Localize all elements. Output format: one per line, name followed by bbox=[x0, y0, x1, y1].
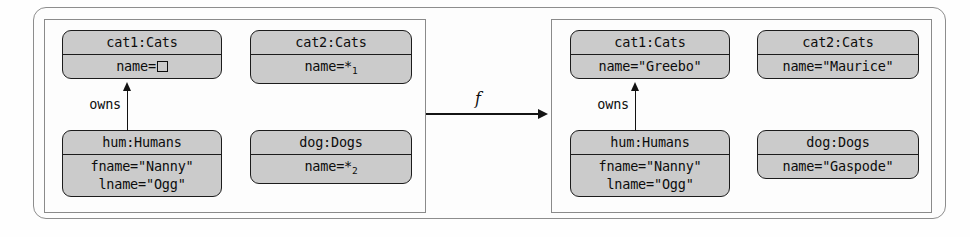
object-header-source-cat2: cat2:Cats bbox=[251, 31, 411, 55]
object-slots-source-cat1: name= bbox=[63, 55, 221, 78]
slot-text-source-cat1-0: name= bbox=[116, 58, 156, 74]
slot-text-target-hum-1: lname="Ogg" bbox=[575, 175, 725, 193]
object-box-target-hum: hum:Humans fname="Nanny" lname="Ogg" bbox=[570, 130, 730, 197]
target-model-panel: cat1:Cats name="Greebo" cat2:Cats name="… bbox=[551, 19, 932, 213]
object-header-target-hum: hum:Humans bbox=[571, 131, 729, 155]
slot-text-source-dog-0: name=* bbox=[304, 158, 352, 174]
slot-text-source-cat2-0: name=* bbox=[304, 58, 352, 74]
object-header-source-cat1: cat1:Cats bbox=[63, 31, 221, 55]
slot-text-source-hum-0: fname="Nanny" bbox=[67, 157, 217, 175]
object-box-target-dog: dog:Dogs name="Gaspode" bbox=[757, 130, 919, 179]
object-header-target-cat2: cat2:Cats bbox=[758, 31, 918, 55]
object-slots-source-dog: name=*2 bbox=[251, 155, 411, 183]
link-label-owns-source: owns bbox=[89, 96, 121, 112]
transformation-arrow-shaft bbox=[426, 113, 539, 115]
transformation-arrow: f bbox=[426, 113, 548, 115]
object-header-target-dog: dog:Dogs bbox=[758, 131, 918, 155]
slot-text-source-hum-1: lname="Ogg" bbox=[67, 175, 217, 193]
object-slots-target-cat2: name="Maurice" bbox=[758, 55, 918, 78]
object-slots-target-hum: fname="Nanny" lname="Ogg" bbox=[571, 155, 729, 196]
slot-subscript-source-cat2: 1 bbox=[352, 65, 358, 76]
empty-value-square-icon bbox=[157, 61, 168, 72]
object-box-source-cat1: cat1:Cats name= bbox=[62, 30, 222, 79]
object-slots-target-dog: name="Gaspode" bbox=[758, 155, 918, 178]
object-slots-source-cat2: name=*1 bbox=[251, 55, 411, 83]
object-header-source-hum: hum:Humans bbox=[63, 131, 221, 155]
link-shaft bbox=[127, 89, 128, 131]
slot-text-target-hum-0: fname="Nanny" bbox=[575, 157, 725, 175]
object-header-source-dog: dog:Dogs bbox=[251, 131, 411, 155]
object-header-target-cat1: cat1:Cats bbox=[571, 31, 729, 55]
object-slots-target-cat1: name="Greebo" bbox=[571, 55, 729, 78]
object-box-source-dog: dog:Dogs name=*2 bbox=[250, 130, 412, 184]
object-box-target-cat1: cat1:Cats name="Greebo" bbox=[570, 30, 730, 79]
link-label-owns-target: owns bbox=[597, 96, 629, 112]
object-box-source-cat2: cat2:Cats name=*1 bbox=[250, 30, 412, 84]
slot-subscript-source-dog: 2 bbox=[352, 165, 358, 176]
transformation-arrow-label: f bbox=[475, 89, 481, 108]
source-model-panel: cat1:Cats name= cat2:Cats name=*1 hum:Hu… bbox=[44, 19, 426, 213]
arrowhead-right-icon bbox=[538, 109, 548, 119]
object-box-source-hum: hum:Humans fname="Nanny" lname="Ogg" bbox=[62, 130, 222, 197]
object-box-target-cat2: cat2:Cats name="Maurice" bbox=[757, 30, 919, 79]
object-diagram-figure: cat1:Cats name= cat2:Cats name=*1 hum:Hu… bbox=[0, 0, 970, 237]
link-shaft bbox=[635, 89, 636, 131]
object-slots-source-hum: fname="Nanny" lname="Ogg" bbox=[63, 155, 221, 196]
